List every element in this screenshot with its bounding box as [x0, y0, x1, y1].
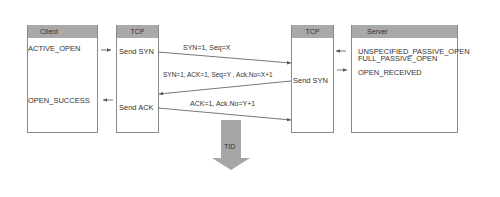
tid-label: TID: [224, 143, 235, 150]
message-syn-ack-arrow-icon: [159, 81, 291, 94]
arrows-layer: [0, 0, 500, 197]
message-ack-arrow-icon: [158, 108, 291, 120]
message-syn-arrow-icon: [158, 52, 291, 63]
